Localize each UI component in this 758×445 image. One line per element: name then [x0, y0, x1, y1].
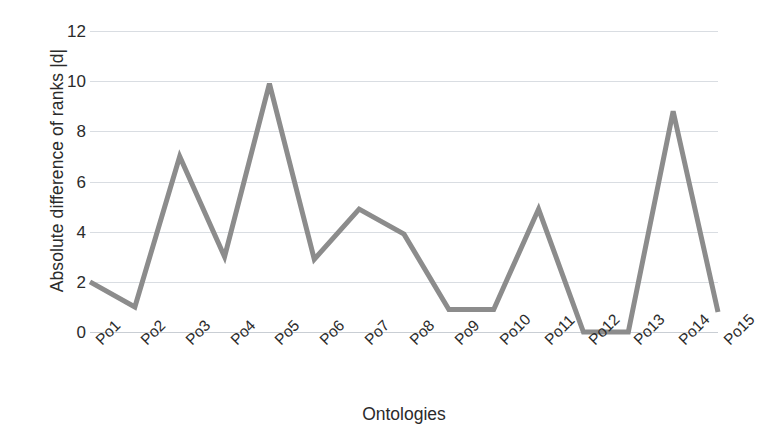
y-axis-tick-labels: 024681012 [48, 0, 86, 445]
y-tick-label-0: 0 [48, 324, 86, 341]
x-axis-tick-labels: Po1Po2Po3Po4Po5Po6Po7Po8Po9Po10Po11Po12P… [90, 336, 718, 398]
y-tick-label-2: 2 [48, 273, 86, 290]
y-tick-label-6: 6 [48, 173, 86, 190]
y-tick-label-8: 8 [48, 123, 86, 140]
y-tick-label-12: 12 [48, 23, 86, 40]
y-tick-label-4: 4 [48, 223, 86, 240]
x-tick-label-po15: Po15 [720, 310, 758, 348]
y-tick-label-10: 10 [48, 73, 86, 90]
plot-area [90, 31, 718, 332]
series-line-absolute-difference-of-ranks [90, 84, 718, 332]
series-line-group [90, 31, 718, 332]
x-axis-title: Ontologies [90, 404, 718, 425]
